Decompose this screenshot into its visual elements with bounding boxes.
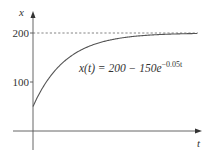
tick-label-100: 100: [13, 76, 30, 88]
chart-figure: x 200 100 t x(t) = 200 − 150e−0.05t: [0, 0, 215, 156]
x-axis-arrow-icon: [195, 129, 202, 134]
y-axis-arrow-icon: [31, 11, 36, 18]
equation-annotation: x(t) = 200 − 150e−0.05t: [78, 60, 183, 75]
x-axis-label: t: [197, 137, 201, 149]
equation-exponent: −0.05t: [162, 60, 184, 69]
equation-lhs: x(t) = 200 − 150e: [78, 62, 162, 75]
y-axis-label: x: [18, 6, 24, 18]
tick-label-200: 200: [13, 27, 30, 39]
